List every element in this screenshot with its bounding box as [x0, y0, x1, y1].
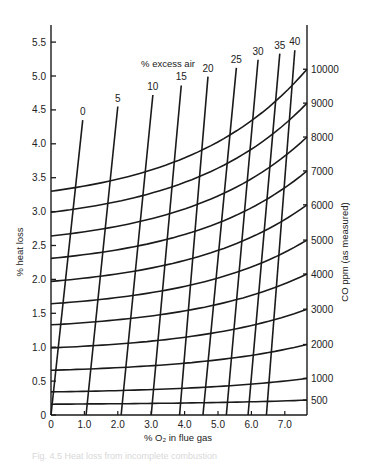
right-axis-ticks: 1000090008000700060005000400030002000100…: [303, 64, 339, 406]
excess-air-line-20: [180, 77, 208, 415]
x-tick-label: 3.0: [144, 419, 158, 430]
right-tick-label: 2000: [311, 339, 334, 350]
excess-air-line-35: [248, 54, 280, 415]
y2-axis-title: CO ppm (as measured): [339, 202, 350, 301]
axes: [51, 25, 307, 415]
excess-air-label: 20: [202, 63, 214, 74]
right-tick-label: 3000: [311, 304, 334, 315]
co-ppm-curves: [51, 69, 307, 404]
y-tick-label: 0: [40, 410, 46, 421]
co-curve-9000: [51, 103, 307, 212]
y-tick-label: 5.5: [32, 37, 46, 48]
x-tick-label: 6.0: [244, 419, 258, 430]
co-curve-5000: [51, 240, 307, 304]
figure-caption: Fig. 4.5 Heat loss from incomplete combu…: [32, 451, 217, 461]
x-tick-label: 0: [48, 419, 54, 430]
x-tick-label: 4.0: [178, 419, 192, 430]
excess-air-label: 25: [231, 54, 243, 65]
excess-air-lines: [51, 50, 295, 415]
co-curve-3000: [51, 309, 307, 348]
y-tick-label: 1.0: [32, 342, 46, 353]
y-tick-label: 3.0: [32, 206, 46, 217]
x-tick-label: 7.0: [278, 419, 292, 430]
right-tick-label: 5000: [311, 235, 334, 246]
excess-air-label: 10: [147, 81, 159, 92]
x-axis-title: % O₂ in flue gas: [144, 432, 212, 443]
y-ticks: 00.51.01.52.02.53.03.54.04.55.05.5: [32, 37, 56, 421]
right-tick-label: 8000: [311, 132, 334, 143]
y-tick-label: 1.5: [32, 308, 46, 319]
y-tick-label: 2.5: [32, 240, 46, 251]
excess-air-label: 35: [274, 40, 286, 51]
excess-air-label: 30: [253, 46, 265, 57]
x-tick-label: 5.0: [211, 419, 225, 430]
nomograph-chart: 00.51.01.52.02.53.03.54.04.55.05.5 01.02…: [0, 0, 367, 465]
excess-air-label: 0: [80, 106, 86, 117]
excess-air-label: 40: [289, 36, 301, 47]
excess-air-labels: 0510152025303540: [80, 36, 301, 117]
right-tick-label: 7000: [311, 166, 334, 177]
y-tick-label: 2.0: [32, 274, 46, 285]
y-tick-label: 4.5: [32, 104, 46, 115]
y-tick-label: 3.5: [32, 172, 46, 183]
co-curve-500: [51, 400, 307, 404]
excess-air-line-15: [151, 85, 181, 415]
right-tick-label: 10000: [311, 64, 339, 75]
excess-air-label: 5: [115, 93, 121, 104]
right-tick-label: 4000: [311, 269, 334, 280]
y-tick-label: 0.5: [32, 376, 46, 387]
y-tick-label: 5.0: [32, 71, 46, 82]
excess-air-label: 15: [176, 71, 188, 82]
co-curve-6000: [51, 205, 307, 282]
excess-air-title: % excess air: [141, 58, 195, 69]
co-curve-2000: [51, 345, 307, 371]
right-tick-label: 6000: [311, 200, 334, 211]
co-curve-4000: [51, 274, 307, 325]
excess-air-line-0: [51, 120, 83, 415]
y-tick-label: 4.0: [32, 138, 46, 149]
x-tick-label: 1.0: [77, 419, 91, 430]
x-tick-label: 2.0: [111, 419, 125, 430]
x-ticks: 01.02.03.04.05.06.07.0: [48, 411, 292, 430]
right-tick-label: 1000: [311, 373, 334, 384]
right-tick-label: 500: [311, 395, 328, 406]
y-axis-title: % heat loss: [14, 227, 25, 276]
right-tick-label: 9000: [311, 98, 334, 109]
